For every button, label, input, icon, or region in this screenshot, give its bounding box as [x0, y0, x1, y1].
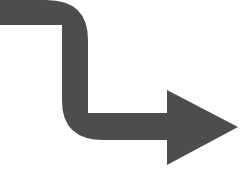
- canvas-background: [0, 0, 245, 186]
- canvas: S-curved right-pointing arrow: [0, 0, 245, 186]
- curved-right-arrow-graphic: S-curved right-pointing arrow: [0, 0, 245, 186]
